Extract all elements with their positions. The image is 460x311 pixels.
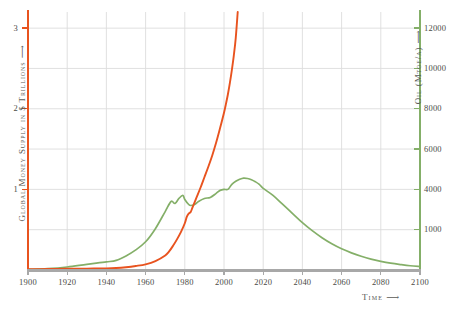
x-axis-tick-label: 1900 (8, 277, 48, 287)
left-axis-title: Global Money Supply in $ Trillions ⟶ (17, 23, 27, 243)
x-axis-tick-label: 2100 (400, 277, 440, 287)
x-axis-tick-mark (106, 270, 107, 275)
x-axis-title: Time ⟶ (362, 292, 400, 302)
x-axis-tick-mark (419, 270, 420, 275)
x-axis-tick-label: 2000 (204, 277, 244, 287)
x-axis-tick-mark (223, 270, 224, 275)
right-axis-tick-label: 12000 (424, 23, 446, 33)
right-axis-tick-label: 1000 (424, 224, 442, 234)
right-axis-tick-mark (414, 229, 420, 230)
oil-production-curve (28, 178, 420, 269)
x-axis-tick-label: 1920 (47, 277, 87, 287)
left-axis-tick-label: 2 (0, 103, 18, 113)
right-axis-tick-mark (414, 189, 420, 190)
x-axis-tick-label: 1960 (126, 277, 166, 287)
right-axis-tick-label: 8000 (424, 103, 442, 113)
right-axis-tick-label: 4000 (424, 184, 442, 194)
plot-area (28, 12, 420, 270)
x-axis-tick-mark (27, 270, 28, 275)
x-axis-tick-label: 2080 (361, 277, 401, 287)
right-axis-title: Oil (Mtoe/a) ⟶ (413, 7, 423, 127)
x-axis-tick-label: 2020 (243, 277, 283, 287)
series-curves (28, 12, 420, 270)
x-axis-tick-mark (145, 270, 146, 275)
x-axis-tick-label: 1940 (86, 277, 126, 287)
x-axis-tick-label: 2060 (322, 277, 362, 287)
left-axis-spine (27, 10, 29, 272)
right-axis-tick-label: 6000 (424, 144, 442, 154)
x-axis-tick-mark (380, 270, 381, 275)
x-axis-tick-label: 2040 (282, 277, 322, 287)
x-axis-tick-mark (341, 270, 342, 275)
x-axis-tick-mark (184, 270, 185, 275)
x-axis-tick-label: 1980 (165, 277, 205, 287)
right-axis-tick-mark (414, 148, 420, 149)
x-axis-tick-mark (263, 270, 264, 275)
x-axis-tick-mark (302, 270, 303, 275)
right-axis-tick-label: 10000 (424, 63, 446, 73)
money-supply-curve (28, 12, 238, 269)
left-axis-tick-label: 1 (0, 184, 18, 194)
chart-container: 1231200010000800060004000100019001920194… (0, 0, 460, 311)
left-axis-tick-label: 3 (0, 23, 18, 33)
x-axis-tick-mark (67, 270, 68, 275)
